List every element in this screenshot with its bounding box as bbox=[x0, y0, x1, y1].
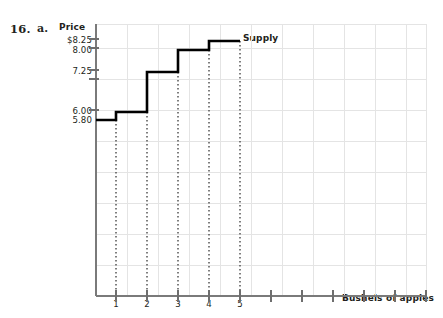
plot-area bbox=[0, 0, 443, 318]
grid-lines bbox=[96, 24, 426, 296]
supply-curve-figure: 16. a. Price Bushels of apples $8.25 8.0… bbox=[0, 0, 443, 318]
axes bbox=[96, 24, 426, 296]
supply-step-curve bbox=[96, 41, 240, 120]
y-axis-ticks bbox=[89, 39, 99, 110]
